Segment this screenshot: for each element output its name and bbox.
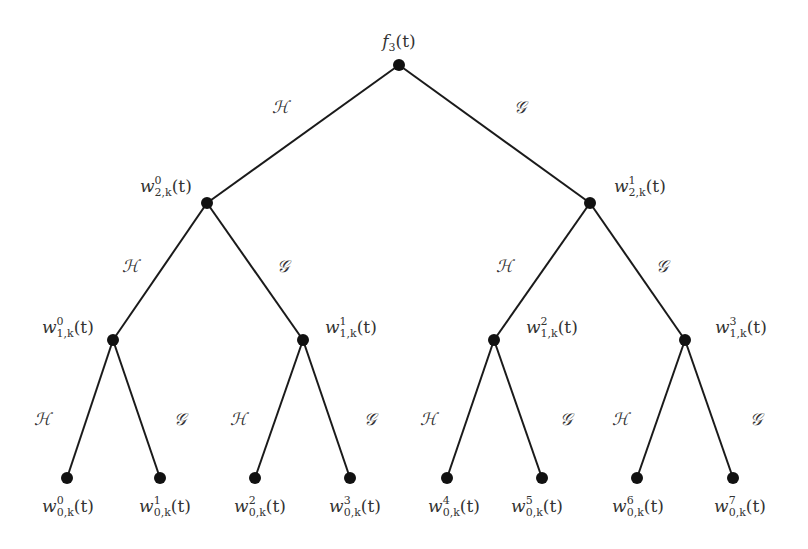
highpass-filter-label: 𝒢: [364, 409, 379, 429]
tree-edge-w1_0-w0_0: [67, 340, 113, 478]
tree-node-w0_3: [344, 472, 356, 484]
highpass-filter-label: 𝒢: [656, 256, 671, 276]
node-label-w0_0: w00,k(t): [42, 494, 94, 519]
tree-edge-w1_2-w0_4: [447, 340, 494, 478]
lowpass-filter-label: ℋ: [122, 256, 142, 276]
lowpass-filter-label: ℋ: [420, 409, 440, 429]
highpass-filter-label: 𝒢: [174, 409, 189, 429]
node-label-w2_1: w12,k(t): [614, 174, 666, 199]
tree-node-w0_5: [536, 472, 548, 484]
tree-edge-w1_3-w0_6: [637, 340, 685, 478]
lowpass-filter-label: ℋ: [34, 409, 54, 429]
node-label-w1_1: w11,k(t): [325, 315, 377, 340]
tree-node-w0_7: [727, 472, 739, 484]
tree-edge-w1_1-w0_3: [303, 340, 350, 478]
tree-edge-w1_0-w0_1: [113, 340, 160, 478]
node-label-root: f3(t): [380, 31, 415, 54]
tree-edge-root-w2_1: [399, 65, 590, 203]
highpass-filter-label: 𝒢: [277, 256, 292, 276]
tree-edge-w1_3-w0_7: [685, 340, 733, 478]
tree-node-root: [393, 59, 405, 71]
tree-edge-w1_1-w0_2: [255, 340, 303, 478]
tree-edge-root-w2_0: [207, 65, 399, 203]
node-label-w1_3: w31,k(t): [715, 315, 767, 340]
tree-node-w1_2: [488, 334, 500, 346]
lowpass-filter-label: ℋ: [612, 409, 632, 429]
tree-node-w1_3: [679, 334, 691, 346]
node-label-w1_2: w21,k(t): [526, 315, 578, 340]
lowpass-filter-label: ℋ: [230, 409, 250, 429]
tree-node-w2_1: [584, 197, 596, 209]
lowpass-filter-label: ℋ: [496, 256, 516, 276]
tree-edge-w1_2-w0_5: [494, 340, 542, 478]
tree-node-w0_4: [441, 472, 453, 484]
lowpass-filter-label: ℋ: [272, 97, 292, 117]
node-label-w0_2: w20,k(t): [234, 494, 286, 519]
node-label-w2_0: w02,k(t): [140, 174, 192, 199]
tree-node-w1_1: [297, 334, 309, 346]
tree-edges: [67, 65, 733, 478]
filter-labels: ℋ𝒢ℋ𝒢ℋ𝒢ℋ𝒢ℋ𝒢ℋ𝒢ℋ𝒢: [34, 97, 766, 429]
node-label-w0_4: w40,k(t): [428, 494, 480, 519]
node-label-w0_5: w50,k(t): [511, 494, 563, 519]
tree-node-w0_6: [631, 472, 643, 484]
wavelet-packet-tree-diagram: ℋ𝒢ℋ𝒢ℋ𝒢ℋ𝒢ℋ𝒢ℋ𝒢ℋ𝒢 f3(t)w02,k(t)w12,k(t)w01,…: [0, 0, 808, 549]
tree-edge-w2_1-w1_3: [590, 203, 685, 340]
node-label-w0_6: w60,k(t): [612, 494, 664, 519]
highpass-filter-label: 𝒢: [750, 409, 765, 429]
node-label-w0_1: w10,k(t): [139, 494, 191, 519]
node-label-w0_3: w30,k(t): [329, 494, 381, 519]
tree-node-w2_0: [201, 197, 213, 209]
node-label-w1_0: w01,k(t): [42, 315, 94, 340]
tree-node-w1_0: [107, 334, 119, 346]
node-label-w0_7: w70,k(t): [714, 494, 766, 519]
highpass-filter-label: 𝒢: [514, 97, 529, 117]
tree-node-w0_2: [249, 472, 261, 484]
tree-node-w0_0: [61, 472, 73, 484]
highpass-filter-label: 𝒢: [560, 409, 575, 429]
tree-node-w0_1: [154, 472, 166, 484]
